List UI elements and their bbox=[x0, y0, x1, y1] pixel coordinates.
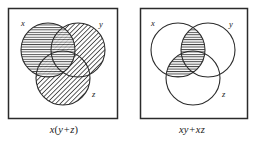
venn-figure: x y z x(y+z) bbox=[0, 0, 257, 147]
venn-diagram-right: x y z bbox=[128, 0, 257, 124]
label-y-left: y bbox=[98, 19, 103, 29]
panel-right: x y z xy+xz bbox=[128, 0, 256, 147]
label-z-left: z bbox=[91, 89, 96, 99]
caption-right-first: y bbox=[184, 124, 189, 135]
panel-left: x y z x(y+z) bbox=[0, 0, 128, 147]
caption-left-close-paren: ) bbox=[75, 124, 79, 135]
caption-left: x(y+z) bbox=[0, 124, 128, 135]
caption-right: xy+xz bbox=[128, 124, 256, 135]
venn-diagram-left: x y z bbox=[0, 0, 128, 124]
caption-right-second: xz bbox=[196, 124, 205, 135]
label-x-right: x bbox=[150, 18, 155, 28]
caption-right-operator: + bbox=[189, 124, 196, 135]
label-z-right: z bbox=[221, 89, 226, 99]
label-y-right: y bbox=[228, 19, 233, 29]
label-x-left: x bbox=[20, 18, 25, 28]
